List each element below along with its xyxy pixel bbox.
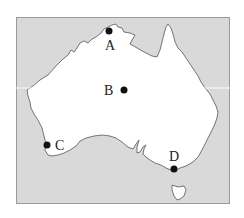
- label-b: B: [104, 83, 113, 98]
- marker-d-icon: [171, 166, 178, 173]
- marker-b-icon: [121, 87, 128, 94]
- label-c: C: [55, 138, 64, 153]
- label-a: A: [105, 38, 116, 53]
- marker-a-icon: [106, 28, 113, 35]
- australia-map: A B C D: [0, 0, 244, 218]
- label-d: D: [169, 149, 179, 164]
- marker-c-icon: [44, 142, 51, 149]
